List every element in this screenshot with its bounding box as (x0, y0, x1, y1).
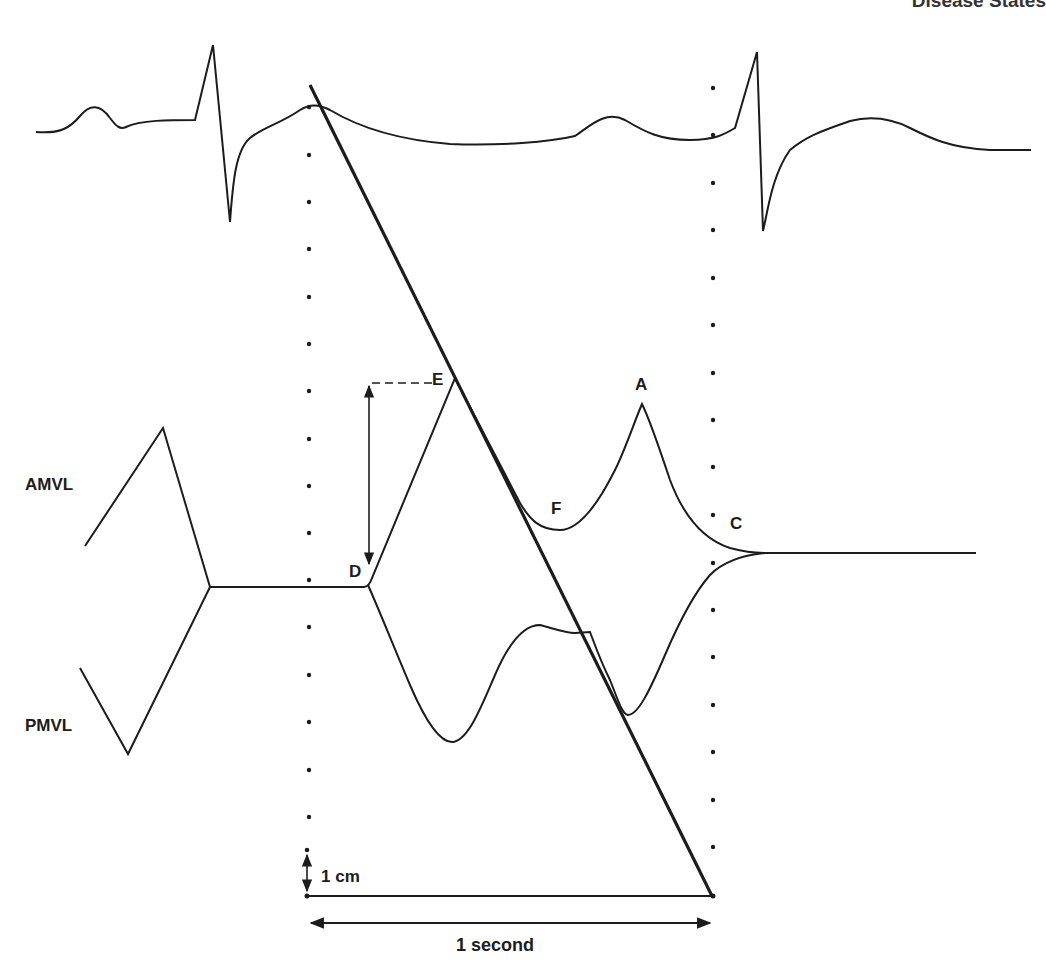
label-amvl: AMVL (25, 475, 73, 494)
ef-slope-line (310, 85, 712, 896)
label-one-cm: 1 cm (321, 867, 360, 886)
mmode-echo-diagram: AMVL PMVL D E F A C 1 cm 1 second (0, 0, 1046, 974)
label-point-a: A (635, 375, 647, 394)
label-point-f: F (551, 499, 561, 518)
label-point-d: D (349, 562, 361, 581)
label-point-e: E (432, 370, 443, 389)
amvl-trace (85, 378, 976, 587)
ecg-trace (36, 45, 1031, 231)
pmvl-trace (80, 553, 765, 754)
label-point-c: C (730, 514, 742, 533)
dotted-timing-line-left (307, 105, 311, 819)
label-pmvl: PMVL (25, 716, 72, 735)
label-one-second: 1 second (456, 935, 534, 955)
dotted-timing-line-right (711, 86, 715, 849)
